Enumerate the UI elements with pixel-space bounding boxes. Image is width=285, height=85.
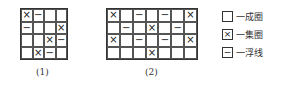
knit-cell (107, 22, 120, 35)
legend: 一成圈 × 一集圈 − 一浮线 (222, 8, 263, 62)
legend-item-tuck: × 一集圈 (222, 26, 263, 42)
float-cell: − (33, 9, 45, 22)
tuck-cell: × (107, 9, 120, 22)
knit-cell (184, 22, 197, 35)
tuck-cell: × (107, 34, 120, 47)
cross-square-icon: × (222, 29, 233, 40)
knit-cell (21, 34, 33, 47)
diagram-1-grid: ×−−××−×− (20, 8, 68, 60)
float-cell: − (158, 9, 171, 22)
float-cell: − (120, 22, 133, 35)
float-cell: − (44, 47, 56, 60)
knit-cell (56, 47, 68, 60)
dash-square-icon: − (222, 47, 233, 58)
knit-cell (133, 22, 146, 35)
diagram-1-caption: (1) (36, 67, 49, 77)
legend-label: 一浮线 (236, 46, 263, 59)
knit-cell (56, 9, 68, 22)
legend-item-knit: 一成圈 (222, 8, 263, 24)
float-cell: − (21, 22, 33, 35)
knit-cell (107, 47, 120, 60)
knit-cell (33, 22, 45, 35)
knit-cell (146, 9, 159, 22)
tuck-cell: × (146, 22, 159, 35)
tuck-cell: × (33, 47, 45, 60)
legend-item-float: − 一浮线 (222, 44, 263, 60)
knit-cell (33, 34, 45, 47)
knit-cell (120, 34, 133, 47)
knit-cell (21, 47, 33, 60)
float-cell: − (133, 9, 146, 22)
knit-cell (184, 47, 197, 60)
knit-cell (158, 47, 171, 60)
knit-cell (44, 9, 56, 22)
float-cell: − (171, 22, 184, 35)
diagram-2-grid: ×−−×−×−×−−×× (106, 8, 198, 60)
empty-square-icon (222, 11, 233, 22)
tuck-cell: × (56, 22, 68, 35)
diagram-2-caption: (2) (145, 67, 158, 77)
tuck-cell: × (146, 47, 159, 60)
legend-label: 一成圈 (236, 10, 263, 23)
float-cell: − (133, 34, 146, 47)
knit-cell (158, 22, 171, 35)
knit-cell (120, 9, 133, 22)
tuck-cell: × (184, 34, 197, 47)
float-cell: − (158, 34, 171, 47)
knit-cell (120, 47, 133, 60)
knit-cell (171, 34, 184, 47)
knit-cell (133, 47, 146, 60)
tuck-cell: × (44, 34, 56, 47)
tuck-cell: × (184, 9, 197, 22)
knit-cell (44, 22, 56, 35)
knit-cell (171, 47, 184, 60)
legend-label: 一集圈 (236, 28, 263, 41)
knit-cell (171, 9, 184, 22)
knit-cell (146, 34, 159, 47)
tuck-cell: × (21, 9, 33, 22)
float-cell: − (56, 34, 68, 47)
